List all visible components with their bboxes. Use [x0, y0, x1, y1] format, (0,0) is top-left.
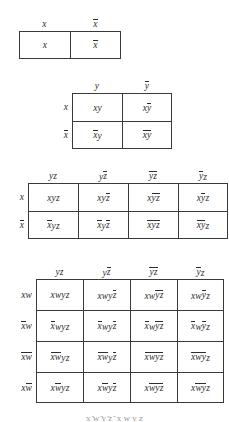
- kmap-cell[interactable]: xwyz: [130, 279, 177, 310]
- kmap-one-column-headers: x x: [19, 14, 121, 31]
- row-label-text: x: [64, 102, 68, 112]
- kmap-cell[interactable]: xwyz: [83, 279, 130, 310]
- column-header: yz: [28, 166, 78, 183]
- kmap-cell[interactable]: xy: [72, 93, 122, 121]
- row-label-text: xw: [21, 351, 32, 362]
- kmap-cell-label: xwyz: [51, 352, 70, 363]
- kmap-cell-label: x: [43, 40, 47, 50]
- kmap-cell-label: xyz: [97, 220, 109, 231]
- column-header: yz: [83, 262, 130, 279]
- column-header: yz: [177, 262, 224, 279]
- kmap-row: x xyz xyz xyz xyz: [7, 183, 228, 211]
- kmap-cell[interactable]: xyz: [128, 211, 178, 239]
- kmap-three-variable: yz yz yz yz x xyz xyz xyz xyz x xyz xyz …: [7, 166, 228, 239]
- row-label-text: xw: [21, 320, 32, 331]
- column-header: y: [122, 76, 172, 93]
- kmap-cell-label: xwyz: [191, 290, 210, 301]
- kmap-cell-label: xwyz: [145, 321, 164, 332]
- kmap-cell[interactable]: x: [70, 31, 121, 59]
- column-header: x: [19, 14, 70, 31]
- kmap-cell[interactable]: xwyz: [36, 341, 83, 372]
- column-header-label: y: [145, 81, 149, 92]
- row-label-text: x: [64, 130, 68, 141]
- kmap-cell[interactable]: xwyz: [177, 372, 224, 403]
- kmap-cell[interactable]: xy: [72, 121, 122, 149]
- kmap-cell[interactable]: xwyz: [130, 341, 177, 372]
- kmap-cell[interactable]: xyz: [28, 183, 78, 211]
- column-header: y: [72, 76, 122, 93]
- column-header: yz: [78, 166, 128, 183]
- kmap-cell-label: xwyz: [145, 382, 164, 393]
- row-label-text: x: [20, 192, 24, 202]
- kmap-two-column-headers: y y: [21, 76, 172, 93]
- row-label: xw: [7, 279, 36, 310]
- row-label: x: [21, 93, 72, 121]
- column-header-label: yz: [196, 267, 204, 278]
- column-header: yz: [36, 262, 83, 279]
- column-header: yz: [130, 262, 177, 279]
- kmap-cell-label: xwyz: [98, 352, 117, 363]
- kmap-cell-label: x: [93, 40, 97, 51]
- kmap-cell[interactable]: xyz: [28, 211, 78, 239]
- kmap-cell[interactable]: xy: [122, 93, 172, 121]
- kmap-cell[interactable]: xwyz: [177, 341, 224, 372]
- kmap-cell[interactable]: xwyz: [83, 372, 130, 403]
- column-header-label: yz: [199, 171, 207, 182]
- kmap-three-column-headers: yz yz yz yz: [7, 166, 228, 183]
- kmap-cell-label: xwyz: [51, 321, 70, 332]
- kmap-cell-label: xyz: [97, 192, 109, 203]
- kmap-cell[interactable]: xwyz: [177, 279, 224, 310]
- kmap-cell-label: xwyz: [191, 382, 210, 393]
- row-label: xw: [7, 372, 36, 403]
- kmap-row: xw xwyz xwyz xwyz xwyz: [7, 341, 224, 372]
- column-header-label: x: [42, 19, 46, 29]
- column-header: x: [70, 14, 121, 31]
- kmap-cell-label: xwyz: [145, 352, 164, 363]
- kmap-row: xw xwyz xwyz xwyz xwyz: [7, 372, 224, 403]
- kmap-cell[interactable]: xyz: [78, 211, 128, 239]
- kmap-cell[interactable]: xwyz: [36, 372, 83, 403]
- kmap-cell[interactable]: xwyz: [83, 341, 130, 372]
- kmap-cell[interactable]: xwyz: [83, 310, 130, 341]
- kmap-four-variable: yz yz yz yz xw xwyz xwyz xwyz xwyz xw xw…: [7, 262, 224, 403]
- row-label: x: [7, 183, 28, 211]
- kmap-cell[interactable]: xy: [122, 121, 172, 149]
- column-header: yz: [178, 166, 228, 183]
- row-label-text: x: [20, 220, 24, 231]
- kmap-cell[interactable]: xyz: [78, 183, 128, 211]
- column-header-label: yz: [149, 171, 157, 182]
- kmap-four-column-headers: yz yz yz yz: [7, 262, 224, 279]
- kmap-cell[interactable]: xwyz: [36, 310, 83, 341]
- column-header-label: yz: [99, 171, 107, 182]
- kmap-two-variable: y y x xy xy x xy xy: [21, 76, 172, 149]
- kmap-cell-label: xyz: [197, 220, 209, 231]
- column-header-label: yz: [55, 267, 63, 277]
- row-label-text: xw: [21, 290, 32, 300]
- kmap-cell[interactable]: xyz: [178, 211, 228, 239]
- kmap-cell-label: xyz: [197, 192, 209, 203]
- kmap-cell-label: xyz: [147, 220, 159, 231]
- kmap-cell[interactable]: xwyz: [177, 310, 224, 341]
- row-label-text: xw: [21, 382, 32, 393]
- column-header-label: x: [93, 19, 97, 30]
- kmap-cell[interactable]: x: [19, 31, 70, 59]
- kmap-cell[interactable]: xwyz: [36, 279, 83, 310]
- corner-spacer: [21, 76, 72, 93]
- kmap-cell[interactable]: xwyz: [130, 372, 177, 403]
- kmap-cell-label: xyz: [47, 193, 59, 203]
- kmap-cell-label: xyz: [147, 192, 159, 203]
- kmap-cell-label: xy: [93, 130, 102, 141]
- kmap-cell-label: xyz: [47, 220, 59, 231]
- row-label: x: [7, 211, 28, 239]
- row-label: xw: [7, 310, 36, 341]
- kmap-row: x x: [19, 31, 121, 59]
- kmap-cell[interactable]: xyz: [178, 183, 228, 211]
- column-header: yz: [128, 166, 178, 183]
- kmap-cell-label: xwyz: [51, 382, 70, 393]
- kmap-row: xw xwyz xwyz xwyz xwyz: [7, 310, 224, 341]
- column-header-label: yz: [102, 267, 110, 278]
- kmap-one-variable: x x x x: [19, 14, 121, 59]
- kmap-cell[interactable]: xyz: [128, 183, 178, 211]
- kmap-cell[interactable]: xwyz: [130, 310, 177, 341]
- column-header-label: yz: [49, 171, 57, 181]
